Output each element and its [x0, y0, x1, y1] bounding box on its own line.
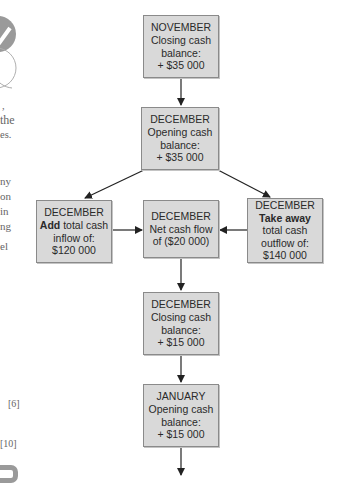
node-line: Closing cash [151, 311, 211, 324]
node-dec-closing: DECEMBER Closing cash balance: + $15 000 [143, 292, 219, 355]
node-line: + $35 000 [156, 151, 203, 164]
node-nov-closing: NOVEMBER Closing cash balance: + $35 000 [143, 15, 219, 78]
emphasis-add: Add [40, 219, 60, 231]
node-line: DECEMBER [255, 199, 315, 212]
node-line: + $15 000 [157, 336, 204, 349]
node-line: $140 000 [263, 249, 307, 262]
node-line: total cash [263, 224, 308, 237]
node-line-rest: total cash [60, 219, 108, 231]
node-dec-net: DECEMBER Net cash flow of ($20 000) [143, 200, 219, 258]
node-line: + $15 000 [157, 428, 204, 441]
node-line: $120 000 [52, 244, 96, 257]
arrow-dec-opening-to-inflow [85, 170, 144, 198]
node-line: balance: [161, 324, 201, 337]
node-line: DECEMBER [150, 113, 210, 126]
arrow-dec-opening-to-outflow [218, 170, 270, 197]
node-line: balance: [160, 139, 200, 152]
node-line: Net cash flow [149, 223, 212, 236]
node-line: + $35 000 [157, 59, 204, 72]
node-line: DECEMBER [151, 210, 211, 223]
node-dec-outflow: DECEMBER Take away total cash outflow of… [247, 198, 323, 263]
node-dec-inflow: DECEMBER Add total cash inflow of: $120 … [36, 200, 112, 263]
node-line: Closing cash [151, 34, 211, 47]
emphasis-take-away: Take away [259, 212, 311, 225]
node-dec-opening: DECEMBER Opening cash balance: + $35 000 [141, 107, 219, 170]
node-line: DECEMBER [44, 206, 104, 219]
node-line: Add total cash [40, 219, 108, 232]
node-line: inflow of: [53, 232, 94, 245]
node-line: DECEMBER [151, 298, 211, 311]
node-line: of ($20 000) [153, 235, 210, 248]
node-line: outflow of: [261, 237, 309, 250]
node-jan-opening: JANUARY Opening cash balance: + $15 000 [143, 384, 219, 447]
node-line: NOVEMBER [151, 21, 211, 34]
node-line: balance: [161, 416, 201, 429]
node-line: Opening cash [149, 403, 214, 416]
node-line: balance: [161, 47, 201, 60]
node-line: JANUARY [157, 390, 206, 403]
node-line: Opening cash [148, 126, 213, 139]
